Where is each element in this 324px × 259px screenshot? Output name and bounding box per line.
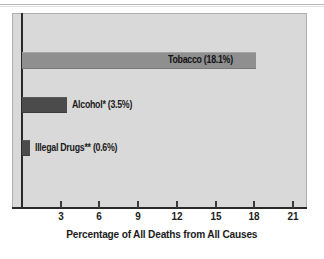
bar-chart-figure: Tobacco (18.1%) Alcohol* (3.5%) Illegal … [0, 0, 324, 259]
x-axis-tick-label: 18 [249, 210, 260, 222]
x-axis-line [12, 207, 307, 209]
top-divider-rule [0, 4, 324, 5]
x-axis-tick-label: 15 [210, 210, 221, 222]
x-axis-tick [98, 201, 100, 208]
x-axis-tick-label: 12 [171, 210, 182, 222]
x-axis-tick [137, 201, 139, 208]
x-axis-tick-label: 6 [97, 210, 103, 222]
x-axis-tick-label: 9 [135, 210, 141, 222]
bar-alcohol [22, 97, 67, 113]
top-divider-rule-secondary [0, 6, 324, 7]
x-axis-tick [215, 201, 217, 208]
x-axis-tick [176, 201, 178, 208]
x-axis-title-text: Percentage of All Deaths from All Causes [67, 228, 258, 240]
bar-label-illegal-drugs: Illegal Drugs** (0.6%) [35, 142, 117, 153]
x-axis-tick-label: 3 [58, 210, 64, 222]
x-axis-tick [292, 201, 294, 208]
x-axis-tick [253, 201, 255, 208]
x-axis-tick [60, 201, 62, 208]
x-axis-tick-label: 21 [287, 210, 298, 222]
bar-label-alcohol: Alcohol* (3.5%) [72, 99, 132, 110]
bar-illegal-drugs [22, 140, 30, 156]
x-axis-title: Percentage of All Deaths from All Causes [0, 228, 324, 240]
bar-label-tobacco: Tobacco (18.1%) [168, 54, 233, 65]
